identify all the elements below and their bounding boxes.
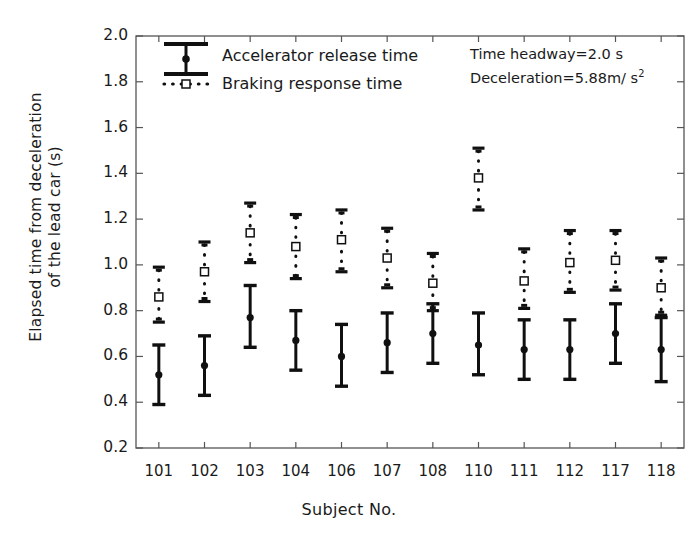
datapoint-braking-response — [153, 267, 165, 322]
datapoint-accelerator-release — [563, 320, 576, 380]
datapoint-accelerator-release — [426, 304, 439, 364]
mean-marker-circle — [155, 371, 162, 378]
plot-area — [0, 0, 698, 545]
mean-marker-square — [338, 236, 346, 244]
legend-mean-marker-square — [182, 80, 190, 88]
datapoint-braking-response — [518, 249, 530, 309]
datapoint-accelerator-release — [518, 320, 531, 380]
datapoint-braking-response — [290, 215, 302, 279]
mean-marker-square — [657, 284, 665, 292]
mean-marker-circle — [566, 346, 573, 353]
datapoint-accelerator-release — [152, 345, 165, 405]
mean-marker-circle — [658, 346, 665, 353]
mean-marker-circle — [338, 353, 345, 360]
datapoint-braking-response — [199, 242, 211, 302]
mean-marker-square — [475, 174, 483, 182]
mean-marker-square — [246, 229, 254, 237]
legend-mean-marker-circle — [182, 55, 190, 63]
mean-marker-square — [566, 259, 574, 267]
mean-marker-circle — [247, 314, 254, 321]
datapoint-accelerator-release — [381, 313, 394, 373]
datapoint-braking-response — [427, 253, 439, 310]
datapoint-accelerator-release — [472, 313, 485, 375]
mean-marker-square — [155, 293, 163, 301]
mean-marker-square — [520, 277, 528, 285]
datapoint-braking-response — [244, 203, 256, 263]
mean-marker-square — [383, 254, 391, 262]
mean-marker-circle — [201, 362, 208, 369]
datapoint-braking-response — [336, 210, 348, 272]
mean-marker-square — [612, 256, 620, 264]
datapoint-accelerator-release — [244, 285, 257, 347]
datapoint-accelerator-release — [335, 324, 348, 386]
mean-marker-circle — [612, 330, 619, 337]
datapoint-accelerator-release — [655, 318, 668, 382]
mean-marker-square — [292, 243, 300, 251]
mean-marker-circle — [475, 341, 482, 348]
mean-marker-circle — [384, 339, 391, 346]
datapoint-braking-response — [473, 148, 485, 210]
legend — [164, 44, 208, 88]
datapoint-accelerator-release — [198, 336, 211, 396]
datapoint-accelerator-release — [609, 304, 622, 364]
plot-frame — [136, 36, 684, 448]
mean-marker-square — [429, 279, 437, 287]
datapoint-braking-response — [655, 258, 667, 315]
mean-marker-square — [201, 268, 209, 276]
chart-root: Elapsed time from deceleration of the le… — [0, 0, 698, 545]
mean-marker-circle — [429, 330, 436, 337]
datapoint-braking-response — [610, 231, 622, 291]
datapoint-braking-response — [564, 231, 576, 293]
datapoint-braking-response — [381, 228, 393, 288]
mean-marker-circle — [292, 337, 299, 344]
mean-marker-circle — [521, 346, 528, 353]
datapoint-accelerator-release — [289, 311, 302, 371]
